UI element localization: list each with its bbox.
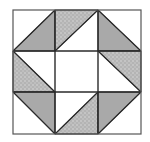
- quilt-block-diagram: [0, 0, 150, 142]
